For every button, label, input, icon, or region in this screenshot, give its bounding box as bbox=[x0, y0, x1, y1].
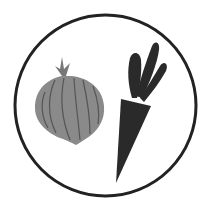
vegetables-badge: Vegetables icon bbox=[0, 0, 211, 210]
onion-icon bbox=[35, 57, 104, 145]
carrot-icon bbox=[116, 43, 167, 183]
vegetables-icon bbox=[0, 0, 211, 210]
